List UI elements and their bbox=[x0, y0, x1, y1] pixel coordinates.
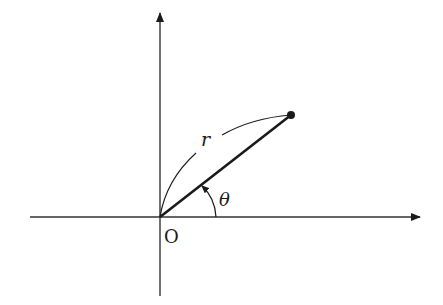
radius-arc-upper bbox=[222, 115, 291, 135]
angle-arc bbox=[202, 186, 216, 217]
radius-arc-lower bbox=[160, 153, 196, 217]
polar-diagram: r θ O bbox=[0, 0, 443, 305]
radius-label: r bbox=[201, 128, 212, 150]
angle-label: θ bbox=[219, 189, 230, 210]
origin-label: O bbox=[164, 226, 179, 247]
